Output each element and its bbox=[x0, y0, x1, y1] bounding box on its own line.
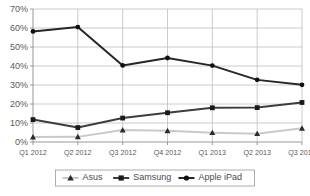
x-axis-labels: Q1 2012Q2 2012Q3 2012Q4 2012Q1 2013Q2 20… bbox=[19, 148, 310, 157]
data-point-marker bbox=[165, 110, 170, 115]
data-point-marker bbox=[119, 175, 124, 180]
y-axis-tick-label: 30% bbox=[10, 80, 28, 90]
data-point-marker bbox=[300, 100, 305, 105]
data-point-marker bbox=[255, 77, 260, 82]
data-point-marker bbox=[210, 63, 215, 68]
chart-container: 70%60%50%40%30%20%10%0% Q1 2012Q2 2012Q3… bbox=[0, 0, 310, 196]
line-chart: 70%60%50%40%30%20%10%0% Q1 2012Q2 2012Q3… bbox=[0, 0, 310, 196]
chart-legend: AsusSamsungApple iPad bbox=[56, 170, 255, 186]
x-axis-tick-label: Q2 2012 bbox=[64, 148, 92, 157]
data-point-marker bbox=[210, 105, 215, 110]
y-axis-tick-label: 40% bbox=[10, 61, 28, 71]
legend-label: Apple iPad bbox=[198, 172, 242, 182]
y-axis-tick-label: 0% bbox=[15, 137, 28, 147]
legend-label: Asus bbox=[83, 172, 104, 182]
y-axis-tick-label: 60% bbox=[10, 23, 28, 33]
gridlines bbox=[30, 9, 302, 145]
data-point-marker bbox=[75, 25, 80, 30]
y-axis-labels: 70%60%50%40%30%20%10%0% bbox=[10, 4, 28, 147]
data-point-marker bbox=[31, 29, 36, 34]
data-point-marker bbox=[120, 116, 125, 121]
x-axis-tick-label: Q3 2012 bbox=[109, 148, 137, 157]
data-point-marker bbox=[184, 175, 189, 180]
x-axis-tick-label: Q1 2012 bbox=[19, 148, 47, 157]
data-point-marker bbox=[300, 82, 305, 87]
y-axis-tick-label: 50% bbox=[10, 42, 28, 52]
y-axis-tick-label: 10% bbox=[10, 118, 28, 128]
x-axis-tick-label: Q3 2013 bbox=[288, 148, 310, 157]
data-point-marker bbox=[31, 117, 36, 122]
data-point-marker bbox=[165, 56, 170, 61]
data-point-marker bbox=[120, 63, 125, 68]
x-axis-tick-label: Q4 2012 bbox=[154, 148, 182, 157]
data-point-marker bbox=[255, 105, 260, 110]
y-axis-tick-label: 20% bbox=[10, 99, 28, 109]
y-axis-tick-label: 70% bbox=[10, 4, 28, 14]
data-point-marker bbox=[75, 125, 80, 130]
legend-label: Samsung bbox=[133, 172, 171, 182]
x-axis-tick-label: Q1 2013 bbox=[199, 148, 227, 157]
x-axis-tick-label: Q2 2013 bbox=[243, 148, 271, 157]
